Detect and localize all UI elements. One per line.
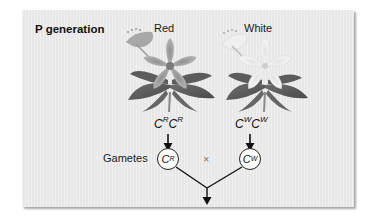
allele-superscript: R — [177, 115, 183, 124]
allele-superscript: W — [244, 115, 252, 124]
allele: C — [168, 117, 177, 131]
gametes-label: Gametes — [103, 152, 148, 164]
red-parent-label: Red — [154, 22, 174, 34]
cross-symbol: × — [203, 153, 209, 165]
p-generation-panel: P generation — [22, 10, 354, 207]
allele: C — [235, 117, 244, 131]
red-genotype: CRCR — [154, 117, 183, 131]
allele-superscript: R — [163, 115, 169, 124]
gamete-allele: C — [243, 153, 251, 165]
generation-title: P generation — [35, 23, 104, 35]
white-gamete-circle: CW — [239, 148, 261, 170]
white-parent-label: White — [244, 22, 272, 34]
red-gamete-circle: CR — [157, 148, 179, 170]
white-genotype: CWCW — [235, 117, 267, 131]
allele: C — [154, 117, 163, 131]
gamete-allele: C — [161, 153, 169, 165]
allele: C — [251, 117, 260, 131]
allele-superscript: W — [260, 115, 268, 124]
